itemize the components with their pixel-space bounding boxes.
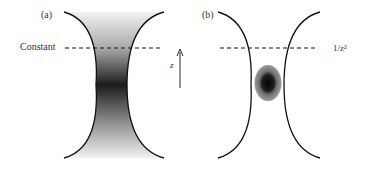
beam-right-curve-b [284, 12, 320, 158]
beam-left-curve-b [218, 12, 251, 158]
panel-b [218, 12, 320, 158]
panel-b-label: (b) [202, 9, 214, 20]
beam-fill-gradient [64, 12, 164, 158]
diagram-canvas [0, 0, 367, 169]
panel-a-label: (a) [41, 9, 52, 20]
constant-label: Constant [20, 41, 56, 52]
panel-a [64, 12, 183, 158]
z-axis-arrow-icon [177, 49, 183, 88]
inverse-square-label: 1/z² [333, 43, 347, 53]
z-axis-label: z [170, 60, 174, 70]
focal-spot [255, 65, 282, 101]
